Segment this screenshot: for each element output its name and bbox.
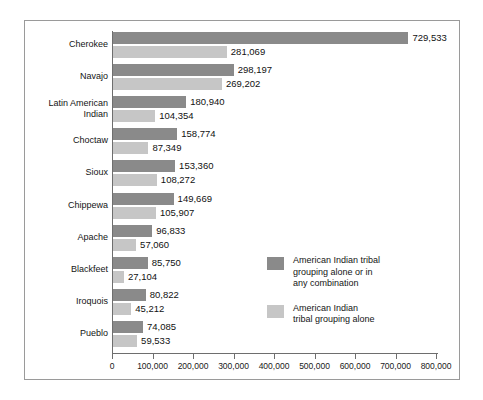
x-axis-tick [396, 354, 397, 359]
legend-item[interactable]: American Indian tribal grouping alone or… [267, 255, 447, 290]
bar-value-label: 85,750 [152, 256, 181, 269]
bar-value-label: 281,069 [231, 45, 265, 58]
bar-value-label: 269,202 [226, 77, 260, 90]
x-axis-tick [112, 354, 113, 359]
x-axis-tick-label: 700,000 [380, 361, 411, 372]
category-label: Iroquois [22, 296, 108, 307]
x-axis-tick [355, 354, 356, 359]
bar-alone[interactable] [113, 142, 148, 154]
bar-group: Navajo298,197269,202 [113, 64, 437, 90]
x-axis-tick [436, 354, 437, 359]
bar-group: Latin American Indian180,940104,354 [113, 96, 437, 122]
x-axis-tick [274, 354, 275, 359]
legend-label: American Indian tribal grouping alone [293, 303, 375, 326]
bar-value-label: 729,533 [412, 31, 446, 44]
bar-row: 180,940 [113, 96, 437, 108]
x-axis-tick-label: 100,000 [137, 361, 168, 372]
bar-row: 104,354 [113, 110, 437, 122]
legend-swatch [267, 305, 284, 318]
category-label: Choctaw [22, 135, 108, 146]
bar-combo[interactable] [113, 96, 186, 108]
bar-alone[interactable] [113, 78, 222, 90]
bar-value-label: 298,197 [238, 63, 272, 76]
bar-group: Sioux153,360108,272 [113, 160, 437, 186]
bar-combo[interactable] [113, 289, 146, 301]
bar-value-label: 57,060 [140, 238, 169, 251]
x-axis-tick-label: 500,000 [299, 361, 330, 372]
bar-value-label: 45,212 [135, 302, 164, 315]
bar-combo[interactable] [113, 64, 234, 76]
bar-row: 149,669 [113, 193, 437, 205]
category-label: Blackfeet [22, 264, 108, 275]
category-label: Latin American Indian [22, 98, 108, 119]
category-axis-line [112, 353, 438, 354]
bar-combo[interactable] [113, 193, 174, 205]
bar-row: 153,360 [113, 160, 437, 172]
x-axis-tick [315, 354, 316, 359]
bar-value-label: 27,104 [128, 270, 157, 283]
bar-alone[interactable] [113, 271, 124, 283]
bar-value-label: 104,354 [159, 109, 193, 122]
bar-row: 87,349 [113, 142, 437, 154]
bar-alone[interactable] [113, 335, 137, 347]
bar-group: Apache96,83357,060 [113, 225, 437, 251]
category-label: Cherokee [22, 39, 108, 50]
bar-row: 108,272 [113, 174, 437, 186]
bar-combo[interactable] [113, 32, 408, 44]
bar-combo[interactable] [113, 321, 143, 333]
bar-combo[interactable] [113, 225, 152, 237]
bar-alone[interactable] [113, 174, 157, 186]
bar-value-label: 153,360 [179, 159, 213, 172]
x-axis-tick-label: 800,000 [421, 361, 452, 372]
chart-frame: 0100,000200,000300,000400,000500,000600,… [24, 20, 460, 380]
bar-alone[interactable] [113, 303, 131, 315]
bar-group: Chippewa149,669105,907 [113, 193, 437, 219]
x-axis-tick-label: 600,000 [340, 361, 371, 372]
bar-value-label: 87,349 [152, 141, 181, 154]
x-axis-tick [193, 354, 194, 359]
x-axis-tick-label: 200,000 [178, 361, 209, 372]
bar-alone[interactable] [113, 110, 155, 122]
bar-value-label: 158,774 [181, 127, 215, 140]
bar-combo[interactable] [113, 128, 177, 140]
bar-alone[interactable] [113, 207, 156, 219]
bar-row: 269,202 [113, 78, 437, 90]
bar-row: 281,069 [113, 46, 437, 58]
category-label: Navajo [22, 71, 108, 82]
bar-row: 57,060 [113, 239, 437, 251]
category-label: Sioux [22, 167, 108, 178]
x-axis-tick-label: 400,000 [259, 361, 290, 372]
chart-legend: American Indian tribal grouping alone or… [267, 255, 447, 339]
bar-value-label: 180,940 [190, 95, 224, 108]
bar-row: 96,833 [113, 225, 437, 237]
bar-combo[interactable] [113, 160, 175, 172]
x-axis-tick-label: 300,000 [218, 361, 249, 372]
legend-item[interactable]: American Indian tribal grouping alone [267, 303, 447, 326]
bar-value-label: 108,272 [161, 173, 195, 186]
legend-label: American Indian tribal grouping alone or… [293, 255, 380, 290]
bar-value-label: 80,822 [150, 288, 179, 301]
bar-group: Cherokee729,533281,069 [113, 32, 437, 58]
bar-alone[interactable] [113, 239, 136, 251]
x-axis-tick [234, 354, 235, 359]
bar-alone[interactable] [113, 46, 227, 58]
bar-value-label: 105,907 [160, 206, 194, 219]
bar-value-label: 59,533 [141, 334, 170, 347]
x-axis-tick-label: 0 [110, 361, 115, 372]
bar-row: 158,774 [113, 128, 437, 140]
category-label: Chippewa [22, 200, 108, 211]
bar-row: 729,533 [113, 32, 437, 44]
legend-swatch [267, 257, 284, 270]
bar-value-label: 96,833 [156, 224, 185, 237]
bar-group: Choctaw158,77487,349 [113, 128, 437, 154]
x-axis-tick [153, 354, 154, 359]
bar-value-label: 149,669 [178, 192, 212, 205]
bar-row: 298,197 [113, 64, 437, 76]
bar-row: 105,907 [113, 207, 437, 219]
bar-combo[interactable] [113, 257, 148, 269]
bar-value-label: 74,085 [147, 320, 176, 333]
category-label: Pueblo [22, 328, 108, 339]
category-label: Apache [22, 232, 108, 243]
